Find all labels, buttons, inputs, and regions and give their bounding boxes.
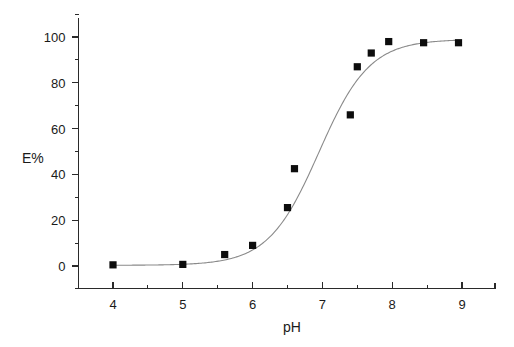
sigmoid-fit-curve xyxy=(113,40,455,265)
chart-plot-area: 456789020406080100E%pH xyxy=(0,0,514,347)
data-point-marker xyxy=(354,63,361,70)
data-point-marker xyxy=(109,261,116,268)
data-point-marker xyxy=(368,49,375,56)
y-tick-label: 40 xyxy=(51,167,65,182)
chart-figure: 456789020406080100E%pH xyxy=(0,0,514,347)
x-axis-ticks: 456789 xyxy=(109,282,465,312)
x-tick-label: 8 xyxy=(389,297,396,312)
y-axis-ticks: 020406080100 xyxy=(44,14,79,289)
data-point-marker xyxy=(179,261,186,268)
data-point-marker xyxy=(455,39,462,46)
data-point-marker xyxy=(420,39,427,46)
y-tick-label: 20 xyxy=(51,213,65,228)
data-series-E-percent xyxy=(109,38,462,268)
x-tick-label: 6 xyxy=(249,297,256,312)
data-point-marker xyxy=(291,165,298,172)
x-tick-label: 9 xyxy=(458,297,465,312)
y-tick-label: 80 xyxy=(51,76,65,91)
data-point-marker xyxy=(249,242,256,249)
data-point-marker xyxy=(221,251,228,258)
axis-lines xyxy=(79,18,496,289)
y-tick-label: 100 xyxy=(44,30,66,45)
x-tick-label: 7 xyxy=(319,297,326,312)
x-tick-label: 4 xyxy=(109,297,116,312)
data-point-marker xyxy=(284,204,291,211)
data-point-marker xyxy=(385,38,392,45)
x-axis-title: pH xyxy=(283,319,301,335)
y-tick-label: 0 xyxy=(58,259,65,274)
x-tick-label: 5 xyxy=(179,297,186,312)
y-tick-label: 60 xyxy=(51,122,65,137)
y-axis-title: E% xyxy=(22,150,44,166)
axes xyxy=(79,18,496,289)
data-point-marker xyxy=(347,111,354,118)
